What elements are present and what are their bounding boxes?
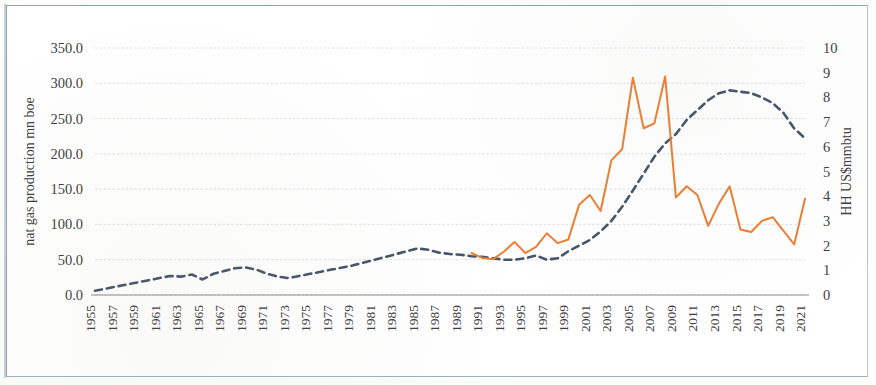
dual-axis-line-chart: 0.050.0100.0150.0200.0250.0300.0350.0012… xyxy=(0,0,876,385)
x-axis-tick-label: 1981 xyxy=(363,305,378,332)
y2-axis-tick-label: 4 xyxy=(823,188,831,204)
chart-figure: 0.050.0100.0150.0200.0250.0300.0350.0012… xyxy=(0,0,876,385)
x-axis-tick-label: 2001 xyxy=(578,305,593,332)
x-axis-tick-label: 1961 xyxy=(148,305,163,332)
y-axis-tick-label: 250.0 xyxy=(50,111,83,127)
x-axis-tick-label: 1991 xyxy=(470,305,485,332)
x-axis-tick-label: 1967 xyxy=(212,305,227,332)
y-axis-title: nat gas production mn boe xyxy=(22,97,37,246)
x-axis-tick-label: 1987 xyxy=(427,305,442,332)
y2-axis-tick-label: 0 xyxy=(823,287,830,303)
y2-axis-tick-label: 2 xyxy=(823,238,830,254)
x-axis-tick-label: 1971 xyxy=(255,305,270,332)
x-axis-tick-label: 1973 xyxy=(277,305,292,332)
x-axis-tick-label: 1957 xyxy=(105,305,120,332)
series-line-nat-gas-production xyxy=(95,90,805,290)
x-axis-tick-label: 1975 xyxy=(298,305,313,332)
y-axis-tick-label: 0.0 xyxy=(65,287,83,303)
x-axis-tick-label: 1993 xyxy=(492,305,507,332)
x-axis-tick-label: 1997 xyxy=(535,305,550,332)
y-axis-tick-label: 350.0 xyxy=(50,40,83,56)
x-axis-tick-label: 2007 xyxy=(642,305,657,332)
x-axis-tick-label: 1959 xyxy=(126,305,141,332)
x-axis-tick-label: 2003 xyxy=(599,305,614,332)
series-line-hh-price xyxy=(472,76,805,259)
x-axis-tick-label: 1963 xyxy=(169,305,184,332)
x-axis-tick-label: 1995 xyxy=(513,305,528,332)
x-axis-tick-label: 1977 xyxy=(320,305,335,332)
x-axis-tick-label: 1999 xyxy=(556,305,571,332)
y2-axis-tick-label: 10 xyxy=(823,40,838,56)
x-axis-tick-label: 1985 xyxy=(406,305,421,332)
y-axis-tick-label: 200.0 xyxy=(50,146,83,162)
x-axis-tick-label: 2019 xyxy=(772,305,787,332)
y-axis-tick-label: 50.0 xyxy=(58,252,83,268)
y-axis-tick-label: 100.0 xyxy=(50,216,83,232)
x-axis-tick-label: 2005 xyxy=(621,305,636,332)
x-axis-tick-label: 1955 xyxy=(83,305,98,332)
x-axis-tick-label: 1969 xyxy=(234,305,249,332)
y2-axis-tick-label: 3 xyxy=(823,213,830,229)
x-axis-tick-label: 2009 xyxy=(664,305,679,332)
x-axis-tick-label: 2013 xyxy=(707,305,722,332)
x-axis-tick-label: 1989 xyxy=(449,305,464,332)
y2-axis-tick-label: 6 xyxy=(823,139,830,155)
x-axis-tick-label: 1983 xyxy=(384,305,399,332)
x-axis-tick-label: 2021 xyxy=(793,305,808,332)
x-axis-tick-label: 2015 xyxy=(729,305,744,332)
y2-axis-tick-label: 9 xyxy=(823,65,830,81)
x-axis-tick-label: 1979 xyxy=(341,305,356,332)
y2-axis-tick-label: 1 xyxy=(823,262,830,278)
y2-axis-tick-label: 8 xyxy=(823,89,830,105)
y-axis-tick-label: 150.0 xyxy=(50,181,83,197)
x-axis-tick-label: 1965 xyxy=(191,305,206,332)
x-axis-tick-label: 2017 xyxy=(750,305,765,332)
y-axis-tick-label: 300.0 xyxy=(50,75,83,91)
y2-axis-tick-label: 7 xyxy=(823,114,830,130)
y2-axis-tick-label: 5 xyxy=(823,164,830,180)
y2-axis-title: HH US$mmbtu xyxy=(839,127,854,215)
x-axis-tick-label: 2011 xyxy=(685,305,700,332)
